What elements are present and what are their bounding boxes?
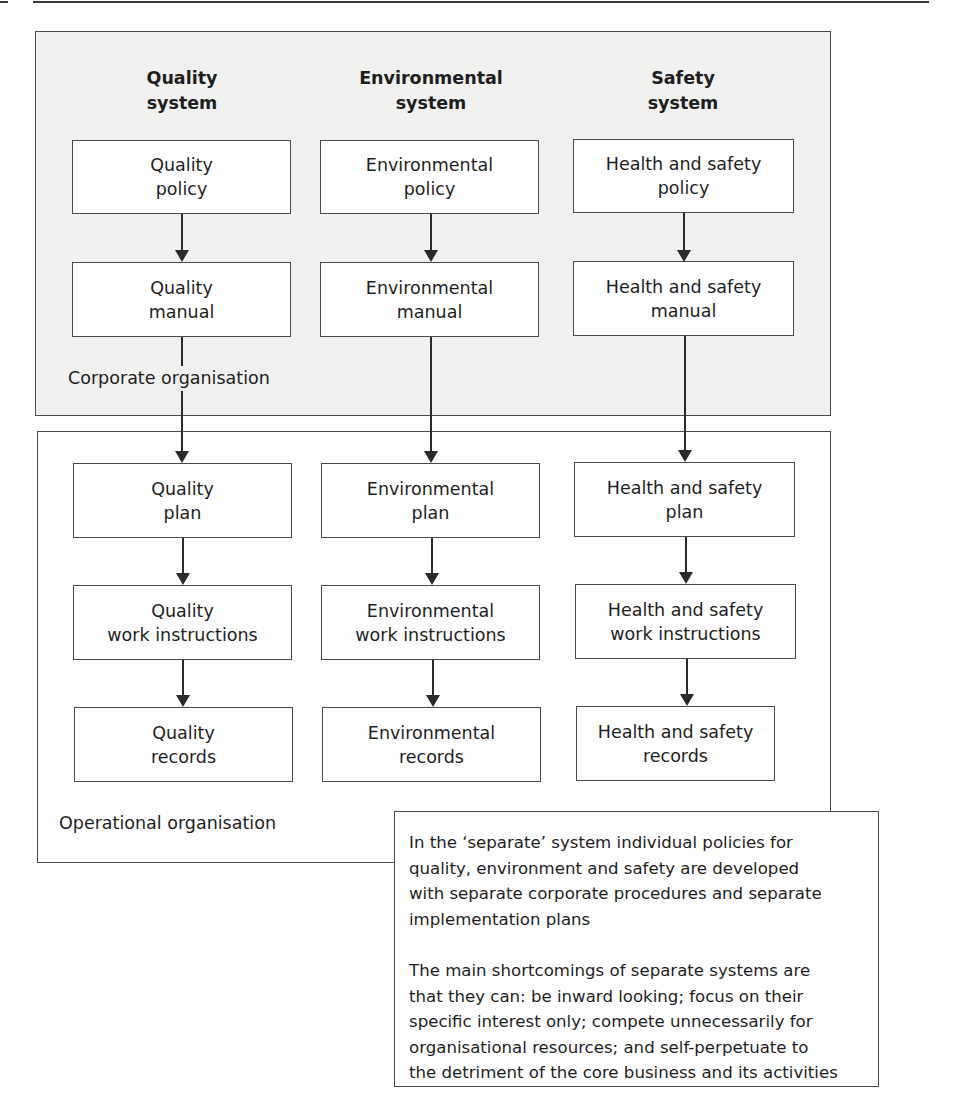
page-header-rule: [33, 1, 929, 3]
node-text: Health and safety: [606, 152, 762, 176]
node-health-safety-plan: Health and safetyplan: [574, 462, 795, 537]
header-environmental-system: Environmental system: [311, 66, 551, 116]
page-top-rule: [0, 1, 8, 3]
note-paragraph-2: The main shortcomings of separate system…: [409, 958, 864, 1086]
node-health-safety-manual: Health and safetymanual: [573, 261, 794, 336]
node-text: Quality: [149, 276, 215, 300]
connector-line: [430, 214, 432, 250]
operational-organisation-label: Operational organisation: [59, 811, 276, 835]
node-text: work instructions: [355, 623, 505, 647]
node-text: records: [598, 744, 754, 768]
node-quality-records: Qualityrecords: [74, 707, 293, 782]
node-text: plan: [607, 500, 763, 524]
note-line: that they can: be inward looking; focus …: [409, 987, 803, 1006]
node-environmental-plan: Environmentalplan: [321, 463, 540, 538]
connector-line: [431, 538, 433, 573]
note-paragraph-1: In the ‘separate’ system individual poli…: [409, 830, 864, 932]
node-text: Environmental: [366, 276, 493, 300]
note-line: specific interest only; compete unnecess…: [409, 1012, 813, 1031]
connector-line: [432, 660, 434, 695]
corporate-organisation-label: Corporate organisation: [66, 366, 272, 390]
connector-line: [181, 214, 183, 250]
arrow-down-icon: [424, 250, 438, 262]
node-text: Quality: [151, 721, 216, 745]
node-text: policy: [366, 177, 493, 201]
node-text: work instructions: [608, 622, 764, 646]
node-text: Quality: [107, 599, 257, 623]
node-text: Environmental: [368, 721, 495, 745]
header-line: Quality: [147, 68, 218, 88]
node-text: Environmental: [355, 599, 505, 623]
connector-line: [684, 336, 686, 450]
note-line: organisational resources; and self-perpe…: [409, 1038, 808, 1057]
connector-line: [683, 213, 685, 250]
node-text: Health and safety: [608, 598, 764, 622]
node-text: Health and safety: [598, 720, 754, 744]
arrow-down-icon: [175, 250, 189, 262]
node-environmental-manual: Environmentalmanual: [320, 262, 539, 337]
note-line: quality, environment and safety are deve…: [409, 859, 799, 878]
connector-line: [181, 391, 183, 451]
node-text: policy: [606, 176, 762, 200]
node-text: records: [151, 745, 216, 769]
arrow-down-icon: [176, 695, 190, 707]
arrow-down-icon: [424, 451, 438, 463]
arrow-down-icon: [678, 450, 692, 462]
arrow-down-icon: [426, 695, 440, 707]
note-line: the detriment of the core business and i…: [409, 1063, 838, 1082]
node-text: Health and safety: [607, 476, 763, 500]
header-line: system: [396, 93, 467, 113]
node-text: manual: [366, 300, 493, 324]
header-line: Environmental: [359, 68, 503, 88]
node-health-safety-records: Health and safetyrecords: [576, 706, 775, 781]
arrow-down-icon: [680, 694, 694, 706]
connector-line: [686, 659, 688, 694]
arrow-down-icon: [677, 250, 691, 262]
header-line: system: [147, 93, 218, 113]
node-environmental-records: Environmentalrecords: [322, 707, 541, 782]
header-line: system: [648, 93, 719, 113]
node-text: records: [368, 745, 495, 769]
node-text: Quality: [150, 153, 213, 177]
header-safety-system: Safety system: [563, 66, 803, 116]
node-text: plan: [151, 501, 214, 525]
node-text: policy: [150, 177, 213, 201]
header-line: Safety: [651, 68, 715, 88]
node-text: plan: [367, 501, 494, 525]
node-quality-policy: Qualitypolicy: [72, 140, 291, 214]
arrow-down-icon: [175, 451, 189, 463]
connector-line: [430, 337, 432, 451]
explanatory-note: In the ‘separate’ system individual poli…: [394, 811, 879, 1087]
note-line: The main shortcomings of separate system…: [409, 961, 810, 980]
node-text: Environmental: [367, 477, 494, 501]
node-text: Health and safety: [606, 275, 762, 299]
arrow-down-icon: [679, 572, 693, 584]
node-text: Environmental: [366, 153, 493, 177]
node-text: manual: [149, 300, 215, 324]
node-quality-work-instructions: Qualitywork instructions: [73, 585, 292, 660]
arrow-down-icon: [425, 573, 439, 585]
node-environmental-work-instructions: Environmentalwork instructions: [321, 585, 540, 660]
node-quality-manual: Qualitymanual: [72, 262, 291, 337]
node-text: Quality: [151, 477, 214, 501]
node-environmental-policy: Environmentalpolicy: [320, 140, 539, 214]
connector-line: [685, 537, 687, 572]
note-line: with separate corporate procedures and s…: [409, 884, 822, 903]
node-text: manual: [606, 299, 762, 323]
note-line: implementation plans: [409, 910, 590, 929]
node-text: work instructions: [107, 623, 257, 647]
node-health-safety-policy: Health and safetypolicy: [573, 139, 794, 213]
connector-line: [182, 660, 184, 695]
note-line: In the ‘separate’ system individual poli…: [409, 833, 793, 852]
header-quality-system: Quality system: [62, 66, 302, 116]
arrow-down-icon: [176, 573, 190, 585]
node-health-safety-work-instructions: Health and safetywork instructions: [575, 584, 796, 659]
connector-line: [182, 538, 184, 573]
node-quality-plan: Qualityplan: [73, 463, 292, 538]
